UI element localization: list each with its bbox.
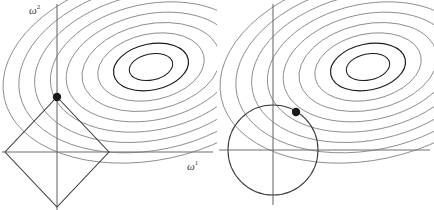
- rss-contour-level-3: [91, 23, 210, 110]
- ridge-panel: ω2 ω1: [217, 0, 434, 210]
- rss-contour-level-1: [127, 50, 175, 85]
- rss-contour-level-2: [326, 37, 410, 98]
- ridge-plot-svg: [217, 0, 434, 210]
- l2-solution-point: [292, 108, 300, 116]
- rss-contour-level-4: [291, 10, 434, 123]
- omega2-axis-label: ω2: [29, 5, 40, 16]
- lasso-panel: ω2 ω1: [0, 0, 217, 210]
- rss-contours: [0, 0, 217, 189]
- rss-contour-level-9: [0, 0, 217, 189]
- rss-contour-level-5: [56, 0, 217, 137]
- l1-solution-point: [53, 93, 61, 101]
- rss-contour-level-7: [20, 0, 217, 163]
- rss-contour-level-6: [255, 0, 434, 150]
- rss-contour-level-7: [237, 0, 434, 163]
- rss-contour-level-6: [38, 0, 217, 150]
- rss-contour-level-2: [109, 37, 193, 98]
- rss-contour-level-5: [273, 0, 434, 137]
- rss-contour-level-1: [344, 50, 392, 85]
- rss-contour-level-3: [308, 23, 427, 110]
- rss-contour-level-9: [217, 0, 434, 189]
- omega1-axis-label: ω1: [187, 161, 198, 172]
- regularization-figure: ω2 ω1 ω2 ω1: [0, 0, 434, 210]
- rss-contours: [217, 0, 434, 189]
- lasso-plot-svg: [0, 0, 217, 210]
- rss-contour-level-4: [74, 10, 217, 123]
